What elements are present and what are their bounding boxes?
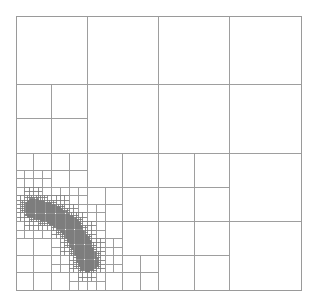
mesh-cell — [61, 243, 65, 247]
mesh-cell — [61, 207, 63, 209]
mesh-cell — [16, 196, 20, 200]
mesh-cell — [101, 247, 105, 251]
mesh-cell — [38, 187, 42, 191]
mesh-cell — [43, 222, 45, 224]
mesh-cell — [72, 213, 74, 215]
mesh-cell — [94, 245, 96, 247]
mesh-cell — [52, 273, 70, 290]
mesh-cell — [114, 247, 123, 256]
mesh-cell — [63, 207, 65, 209]
mesh-cell — [81, 222, 83, 224]
mesh-cell — [16, 217, 20, 221]
mesh-cell — [52, 170, 70, 187]
mesh-cell — [159, 16, 230, 85]
mesh-cell — [38, 192, 42, 196]
mesh-cell — [69, 187, 78, 196]
mesh-cell — [76, 262, 78, 264]
mesh-cell — [98, 262, 100, 264]
mesh-cell — [123, 256, 141, 273]
mesh-cell — [20, 196, 24, 200]
mesh-cell — [87, 277, 91, 281]
mesh-cell — [23, 204, 25, 206]
mesh-cell — [83, 217, 87, 221]
quadtree-mesh — [0, 0, 316, 304]
mesh-cell — [159, 187, 195, 221]
mesh-cell — [61, 247, 65, 251]
mesh-cell — [87, 16, 158, 85]
mesh-cell — [20, 200, 22, 202]
mesh-cell — [98, 258, 100, 260]
mesh-cell — [47, 226, 51, 230]
mesh-cell — [16, 273, 34, 290]
mesh-cell — [78, 213, 82, 217]
mesh-cell — [45, 198, 47, 200]
mesh-cell — [16, 200, 20, 204]
mesh-cell — [69, 269, 73, 273]
mesh-cell — [25, 200, 27, 202]
mesh-cell — [76, 266, 78, 268]
mesh-cell — [56, 234, 60, 238]
mesh-cell — [63, 204, 65, 206]
mesh-cell — [96, 266, 98, 268]
mesh-cell — [29, 222, 33, 226]
mesh-cell — [123, 187, 159, 221]
mesh-cell — [52, 153, 70, 170]
mesh-cell — [98, 251, 100, 253]
mesh-cell — [141, 256, 159, 273]
mesh-cell — [20, 213, 24, 217]
mesh-cell — [96, 251, 98, 253]
mesh-cell — [63, 234, 65, 236]
mesh-cell — [20, 209, 22, 211]
mesh-cell — [87, 234, 89, 236]
mesh-cell — [87, 281, 96, 290]
mesh-cell — [76, 264, 78, 266]
mesh-cell — [85, 228, 87, 230]
mesh-cell — [47, 200, 49, 202]
mesh-cell — [43, 170, 52, 179]
mesh-cell — [29, 226, 33, 230]
mesh-cell — [16, 153, 34, 170]
mesh-cell — [94, 269, 96, 271]
mesh-cell — [141, 273, 159, 290]
mesh-cell — [92, 271, 94, 273]
mesh-cell — [74, 215, 76, 217]
mesh-cell — [89, 234, 91, 236]
mesh-cell — [56, 232, 58, 234]
mesh-cell — [194, 153, 230, 187]
mesh-cell — [92, 273, 96, 277]
mesh-cell — [38, 219, 40, 221]
mesh-cell — [52, 200, 54, 202]
mesh-cell — [40, 198, 42, 200]
mesh-cell — [114, 239, 123, 248]
mesh-cell — [92, 243, 94, 245]
mesh-cell — [85, 232, 87, 234]
mesh-cell — [16, 85, 52, 119]
mesh-cell — [78, 277, 82, 281]
mesh-cell — [25, 187, 29, 191]
mesh-cell — [25, 192, 29, 196]
mesh-cell — [89, 239, 91, 241]
mesh-cell — [25, 230, 34, 239]
mesh-cell — [52, 196, 56, 200]
mesh-cell — [54, 200, 56, 202]
mesh-cell — [38, 224, 40, 226]
mesh-cell — [76, 215, 78, 217]
mesh-cell — [25, 170, 34, 179]
mesh-cell — [65, 196, 69, 200]
mesh-cell — [61, 264, 70, 273]
mesh-cell — [23, 202, 25, 204]
mesh-cell — [61, 232, 63, 234]
mesh-cell — [72, 249, 74, 251]
mesh-cell — [16, 213, 20, 217]
mesh-cell — [34, 239, 52, 256]
mesh-cell — [96, 239, 100, 243]
mesh-cell — [96, 281, 105, 290]
mesh-cell — [47, 224, 49, 226]
mesh-cell — [105, 247, 114, 256]
mesh-cell — [63, 236, 65, 238]
mesh-cell — [98, 260, 100, 262]
mesh-cell — [96, 213, 105, 222]
mesh-cell — [78, 281, 87, 290]
mesh-cell — [67, 209, 69, 211]
mesh-cell — [101, 239, 105, 243]
